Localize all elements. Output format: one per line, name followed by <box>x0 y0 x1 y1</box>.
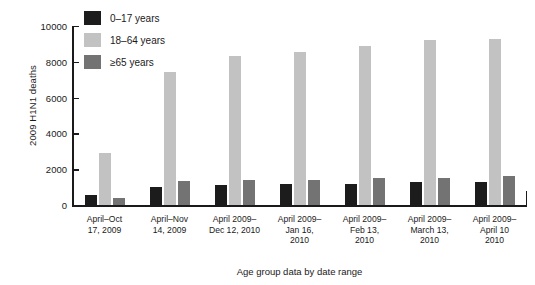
bar <box>150 187 162 205</box>
bar-group <box>397 26 462 205</box>
bar <box>113 198 125 205</box>
legend-label: 0–17 years <box>110 13 159 24</box>
legend-item: 0–17 years <box>84 11 165 25</box>
bar-group <box>267 26 332 205</box>
bar <box>229 56 241 205</box>
bar-group <box>202 26 267 205</box>
y-tick-label: 10000 <box>41 21 67 32</box>
bar <box>294 52 306 205</box>
x-tick-label: April 2009– March 13, 2010 <box>397 214 462 246</box>
chart-legend: 0–17 years18–64 years≥65 years <box>84 11 165 69</box>
y-tick-mark <box>72 205 79 206</box>
x-axis-tick-labels: April–Oct 17, 2009April–Nov 14, 2009Apri… <box>72 214 527 246</box>
bar-group <box>332 26 397 205</box>
chart-figure: 2009 H1N1 deaths 0200040006000800010000 … <box>0 0 535 285</box>
bar <box>503 176 515 205</box>
x-tick-label: April 2009– Jan 16, 2010 <box>267 214 332 246</box>
bar <box>280 184 292 205</box>
x-axis-title: Age group data by date range <box>72 266 527 277</box>
x-tick-label: April 2009– Dec 12, 2010 <box>202 214 267 246</box>
y-tick-label: 2000 <box>46 164 67 175</box>
y-tick-label: 8000 <box>46 56 67 67</box>
bar <box>178 181 190 205</box>
legend-item: ≥65 years <box>84 55 165 69</box>
bar <box>424 40 436 205</box>
x-tick-label: April 2009– April 10 2010 <box>462 214 527 246</box>
legend-label: ≥65 years <box>110 57 154 68</box>
bar <box>489 39 501 205</box>
bar <box>85 195 97 205</box>
bar <box>475 182 487 205</box>
x-tick-label: April–Oct 17, 2009 <box>72 214 137 246</box>
legend-label: 18–64 years <box>110 35 165 46</box>
bar <box>438 178 450 205</box>
bar <box>345 184 357 205</box>
y-axis-title: 2009 H1N1 deaths <box>27 26 38 186</box>
bar <box>99 153 111 205</box>
legend-swatch-icon <box>84 55 101 69</box>
bar <box>308 180 320 205</box>
y-tick-label: 0 <box>62 200 67 211</box>
bar <box>410 182 422 205</box>
x-tick-label: April–Nov 14, 2009 <box>137 214 202 246</box>
y-tick-label: 4000 <box>46 128 67 139</box>
bar <box>359 46 371 205</box>
y-tick-label: 6000 <box>46 92 67 103</box>
legend-swatch-icon <box>84 33 101 47</box>
legend-swatch-icon <box>84 11 101 25</box>
bar-group <box>462 26 527 205</box>
bar <box>164 72 176 205</box>
bar <box>373 178 385 205</box>
x-tick-label: April 2009– Feb 13, 2010 <box>332 214 397 246</box>
legend-item: 18–64 years <box>84 33 165 47</box>
bar <box>243 180 255 205</box>
bar <box>215 185 227 205</box>
